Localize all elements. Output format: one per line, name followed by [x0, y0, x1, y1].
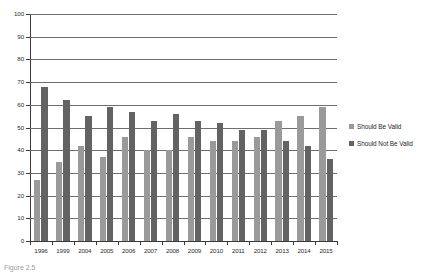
gridline [30, 173, 337, 174]
x-axis-tick-mark [52, 241, 53, 245]
y-axis-tick-label: 80 [0, 56, 24, 62]
x-axis-tick-mark [140, 241, 141, 245]
x-axis-tick-mark [205, 241, 206, 245]
x-axis-tick-mark [184, 241, 185, 245]
figure-caption: Figure 2.5 [4, 264, 36, 272]
x-axis-tick-mark [337, 241, 338, 245]
gridline [30, 196, 337, 197]
y-axis-tick-label: 60 [0, 102, 24, 108]
legend-label-should-be-valid: Should Be Valid [357, 122, 401, 131]
figure-root: 1009080706050403020100 19961999200420052… [0, 0, 429, 273]
bar-should-not-be-valid-2006 [129, 112, 135, 241]
bar-should-not-be-valid-2005 [107, 107, 113, 241]
bar-should-not-be-valid-2004 [85, 116, 91, 241]
bar-should-be-valid-1999 [56, 162, 62, 241]
y-axis-tick-label: 100 [0, 11, 24, 17]
gridline [30, 150, 337, 151]
bar-should-not-be-valid-2010 [217, 123, 223, 241]
gridline [30, 82, 337, 83]
gridline [30, 59, 337, 60]
gridline [30, 105, 337, 106]
gridline [30, 14, 337, 15]
bar-should-not-be-valid-2015 [327, 159, 333, 241]
x-axis-tick-mark [74, 241, 75, 245]
bar-should-be-valid-2015 [319, 107, 325, 241]
bar-should-be-valid-2011 [232, 141, 238, 241]
bar-should-not-be-valid-2013 [283, 141, 289, 241]
legend-swatch-should-not-be-valid [349, 141, 354, 146]
plot-area [30, 14, 337, 241]
bar-should-be-valid-2006 [122, 137, 128, 241]
bar-should-not-be-valid-2012 [261, 130, 267, 241]
gridline [30, 128, 337, 129]
gridline [30, 218, 337, 219]
y-axis-tick-label: 20 [0, 193, 24, 199]
bar-should-be-valid-2014 [297, 116, 303, 241]
bar-should-not-be-valid-1999 [63, 100, 69, 241]
y-axis-tick-label: 0 [0, 238, 24, 244]
x-axis-tick-mark [96, 241, 97, 245]
x-axis-tick-mark [271, 241, 272, 245]
bar-should-not-be-valid-1996 [41, 87, 47, 241]
bar-should-be-valid-1996 [34, 180, 40, 241]
x-axis-tick-mark [30, 241, 31, 245]
y-axis-tick-label: 70 [0, 79, 24, 85]
gridline [30, 37, 337, 38]
bar-should-not-be-valid-2007 [151, 121, 157, 241]
bar-should-be-valid-2010 [210, 141, 216, 241]
bar-should-be-valid-2004 [78, 146, 84, 241]
chart-legend: Should Be Valid Should Not Be Valid [349, 122, 413, 156]
bar-should-be-valid-2008 [166, 150, 172, 241]
x-axis-tick-mark [118, 241, 119, 245]
y-axis-tick-label: 30 [0, 170, 24, 176]
legend-item-should-not-be-valid: Should Not Be Valid [349, 139, 413, 148]
y-axis-tick-label: 90 [0, 34, 24, 40]
y-axis-tick-label: 40 [0, 147, 24, 153]
bar-should-be-valid-2005 [100, 157, 106, 241]
x-axis-tick-mark [227, 241, 228, 245]
bar-should-be-valid-2007 [144, 150, 150, 241]
x-axis-tick-mark [162, 241, 163, 245]
bar-should-be-valid-2012 [254, 137, 260, 241]
bar-should-not-be-valid-2008 [173, 114, 179, 241]
legend-label-should-not-be-valid: Should Not Be Valid [357, 139, 413, 148]
bar-should-not-be-valid-2011 [239, 130, 245, 241]
bar-should-be-valid-2013 [275, 121, 281, 241]
x-axis-tick-mark [293, 241, 294, 245]
y-axis-tick-label: 50 [0, 125, 24, 131]
x-axis-tick-label-2015: 2015 [313, 247, 339, 254]
x-axis-tick-mark [249, 241, 250, 245]
x-axis-tick-mark [315, 241, 316, 245]
legend-swatch-should-be-valid [349, 124, 354, 129]
y-axis-tick-label: 10 [0, 215, 24, 221]
bar-should-not-be-valid-2009 [195, 121, 201, 241]
bar-should-be-valid-2009 [188, 137, 194, 241]
legend-item-should-be-valid: Should Be Valid [349, 122, 413, 131]
bar-should-not-be-valid-2014 [305, 146, 311, 241]
